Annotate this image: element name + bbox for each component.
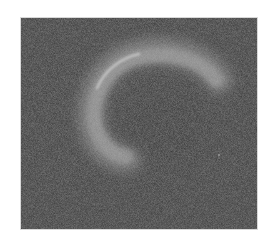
bright-speck: [218, 154, 220, 156]
noise-overlay: [21, 18, 257, 229]
image-panel: [21, 18, 257, 229]
crescent-arc-image: [21, 18, 257, 229]
